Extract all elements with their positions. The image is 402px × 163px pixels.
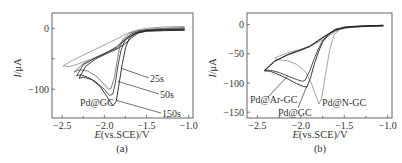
panel-a-annotation: Pd@GC [80, 97, 114, 108]
figure: −2.5−2.0−1.5−1.00−100 25s50s150s Pd@GC E… [0, 0, 402, 163]
panel-a-curve-pd-gc [63, 26, 185, 66]
panel-b-curve-pd-n-gc [275, 26, 384, 104]
panel-b-series-label: Pd@GC [278, 107, 312, 118]
panel-a-xlabel-unit: (vs.SCE)/V [101, 129, 150, 141]
panel-b-series-labels: Pd@N-GCPd@Ar-GCPd@GC [250, 76, 367, 118]
panel-b-xtick-label: −1.0 [379, 120, 397, 131]
panel-a-ytick-label: 0 [44, 23, 49, 34]
panel-a-ylabel: I/μA [12, 58, 23, 79]
panel-a-ytick-label: −100 [28, 84, 49, 95]
panel-b-xlabel: E(vs.SCE)/V [291, 129, 348, 141]
panel-b-curve-pd-ar-gc [264, 26, 383, 82]
panel-a-label: (a) [116, 143, 128, 155]
panel-b-label: (b) [314, 143, 327, 155]
panel-a-leader-line [116, 100, 161, 113]
panel-b-series-label: Pd@N-GC [322, 97, 367, 108]
panel-b-curve-pd-gc [264, 25, 383, 87]
panel-b-series-label: Pd@Ar-GC [250, 94, 298, 105]
panel-b-xtick-label: −2.5 [248, 120, 266, 131]
panel-a-xtick-label: −1.0 [180, 120, 198, 131]
panel-a-series-label: 50s [160, 89, 174, 100]
panel-a-series-labels: 25s50s150s [116, 69, 181, 119]
panel-a-xtick-label: −2.5 [53, 120, 71, 131]
panel-a: −2.5−2.0−1.5−1.00−100 25s50s150s Pd@GC E… [12, 13, 198, 155]
panel-b-leader-line [298, 86, 307, 108]
panel-a-ylabel-unit: /μA [12, 58, 23, 75]
panel-a-series-label: 150s [162, 108, 181, 119]
panel-b-curves [264, 25, 383, 104]
panel-b-ytick-label: −50 [228, 48, 244, 59]
panel-a-leader-line [122, 69, 149, 78]
panel-b-ylabel: I/μA [207, 58, 218, 79]
panel-a-series-label: 25s [150, 73, 164, 84]
panel-b-ytick-label: −150 [223, 107, 244, 118]
panel-b: −2.5−2.0−1.5−1.00−50−100−150 Pd@N-GCPd@A… [207, 13, 397, 155]
panel-b-ylabel-unit: /μA [207, 58, 218, 75]
panel-b-xlabel-unit: (vs.SCE)/V [299, 129, 348, 141]
panel-b-ytick-label: 0 [239, 19, 244, 30]
panel-b-ytick-label: −100 [223, 78, 244, 89]
panel-a-xlabel: E(vs.SCE)/V [93, 129, 150, 141]
